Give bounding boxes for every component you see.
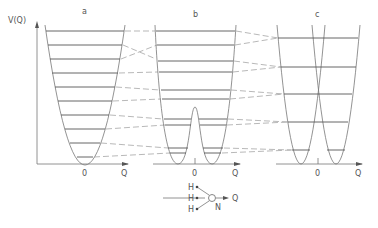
origin-label-b: 0 bbox=[192, 169, 197, 178]
x-axis-label-a: Q bbox=[121, 169, 127, 178]
q-arrow-icon bbox=[223, 196, 229, 200]
x-axis-label-b: Q bbox=[232, 169, 238, 178]
potential-curve-b bbox=[155, 25, 236, 164]
y-axis-label: V(Q) bbox=[8, 16, 26, 25]
panel-c: c 0 Q bbox=[276, 10, 363, 178]
hydrogen-label-1: H bbox=[188, 183, 194, 192]
panel-label-c: c bbox=[315, 10, 319, 19]
panel-label-a: a bbox=[82, 7, 87, 16]
x-axis-arrow-icon bbox=[356, 162, 363, 166]
panel-a: a V(Q) 0 Q bbox=[8, 7, 129, 178]
potential-curve-c-left bbox=[277, 25, 325, 164]
energy-levels-a bbox=[46, 31, 124, 157]
correlation-lines-b-c bbox=[222, 31, 292, 153]
hydrogen-label-3: H bbox=[188, 205, 194, 214]
ammonia-molecule-sketch: H H H N Q bbox=[163, 183, 238, 214]
energy-levels-b bbox=[156, 31, 235, 153]
molecule-q-label: Q bbox=[232, 194, 238, 203]
panel-label-b: b bbox=[193, 10, 198, 19]
origin-label-c: 0 bbox=[315, 169, 320, 178]
x-axis-arrow-icon bbox=[122, 162, 129, 166]
y-axis-arrow-icon bbox=[35, 21, 39, 28]
nitrogen-label: N bbox=[215, 203, 221, 212]
origin-label-a: 0 bbox=[82, 169, 87, 178]
correlation-lines-a-b bbox=[94, 31, 170, 157]
x-axis-arrow-icon bbox=[234, 162, 241, 166]
energy-level-diagram: a V(Q) 0 Q bbox=[0, 0, 378, 228]
x-axis-label-c: Q bbox=[355, 169, 361, 178]
nitrogen-atom-icon bbox=[209, 195, 216, 202]
hydrogen-label-2: H bbox=[188, 194, 194, 203]
potential-curve-c-right bbox=[312, 25, 360, 164]
